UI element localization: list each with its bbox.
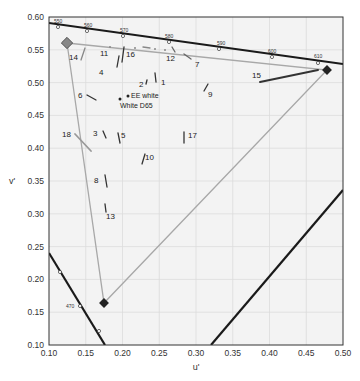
- sample-label-2: 2: [139, 80, 144, 89]
- sample-label-8: 8: [94, 176, 99, 185]
- y-tick-0.50: 0.50: [27, 78, 44, 88]
- y-axis: 0.60 0.55 0.50 0.45 0.40 0.35 0.30 0.25 …: [27, 12, 44, 350]
- y-tick-0.55: 0.55: [27, 45, 44, 55]
- x-tick-0.10: 0.10: [41, 348, 58, 358]
- x-tick-0.35: 0.35: [224, 348, 241, 358]
- sample-label-5: 5: [121, 131, 126, 140]
- sample-label-12: 12: [166, 54, 175, 63]
- wl-label-600: 600: [268, 48, 277, 54]
- y-tick-0.20: 0.20: [27, 274, 44, 284]
- wl-label-590: 590: [217, 40, 226, 46]
- sample-label-6: 6: [78, 91, 83, 100]
- x-tick-0.20: 0.20: [114, 348, 131, 358]
- x-tick-0.50: 0.50: [335, 348, 352, 358]
- d65-white-point: [119, 98, 122, 101]
- sample-label-7: 7: [195, 60, 200, 69]
- x-axis: 0.10 0.15 0.20 0.25 0.30 0.35 0.40 0.45 …: [41, 348, 352, 358]
- sample-label-16: 16: [126, 50, 135, 59]
- ee-white-label: EE white: [131, 92, 159, 99]
- sample-label-4: 4: [99, 68, 104, 77]
- x-tick-0.40: 0.40: [261, 348, 278, 358]
- wl-label-470: 470: [66, 303, 75, 309]
- sample-label-13: 13: [106, 212, 115, 221]
- x-tick-0.30: 0.30: [188, 348, 205, 358]
- y-tick-0.60: 0.60: [27, 12, 44, 22]
- sample-label-9: 9: [208, 90, 213, 99]
- d65-white-label: White D65: [120, 102, 153, 109]
- y-tick-0.15: 0.15: [27, 307, 44, 317]
- x-tick-0.15: 0.15: [77, 348, 94, 358]
- wl-label-550: 550: [54, 18, 63, 24]
- sample-label-11: 11: [100, 49, 109, 58]
- wl-label-570: 570: [120, 27, 129, 33]
- y-tick-0.25: 0.25: [27, 242, 44, 252]
- x-axis-label: u': [193, 362, 200, 372]
- y-tick-0.35: 0.35: [27, 176, 44, 186]
- y-axis-label: v': [9, 176, 16, 186]
- sample-label-10: 10: [145, 153, 154, 162]
- y-tick-0.45: 0.45: [27, 110, 44, 120]
- sample-label-17: 17: [188, 131, 197, 140]
- sample-label-18: 18: [62, 130, 71, 139]
- sample-label-3: 3: [93, 129, 98, 138]
- cie-uv-chromaticity-chart: 550 560 570 580 590 600 610 470 EE white…: [0, 0, 360, 381]
- sample-label-1: 1: [161, 78, 166, 87]
- chart-svg: 550 560 570 580 590 600 610 470 EE white…: [0, 0, 360, 381]
- wl-label-560: 560: [84, 22, 93, 28]
- ee-white-point: [127, 95, 130, 98]
- wl-label-610: 610: [314, 53, 323, 59]
- sample-label-15: 15: [252, 71, 261, 80]
- wl-label-580: 580: [165, 33, 174, 39]
- y-tick-0.40: 0.40: [27, 143, 44, 153]
- x-tick-0.25: 0.25: [151, 348, 168, 358]
- x-tick-0.45: 0.45: [298, 348, 315, 358]
- y-tick-0.30: 0.30: [27, 209, 44, 219]
- sample-label-14: 14: [69, 53, 78, 62]
